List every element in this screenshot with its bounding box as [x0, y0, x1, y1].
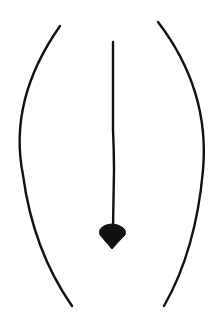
diagram-canvas — [0, 0, 217, 320]
right-arc — [158, 22, 204, 306]
diagram-svg — [0, 0, 217, 320]
arrowhead-icon — [100, 224, 126, 249]
left-arc — [20, 26, 72, 306]
arrow-shaft — [113, 42, 114, 228]
